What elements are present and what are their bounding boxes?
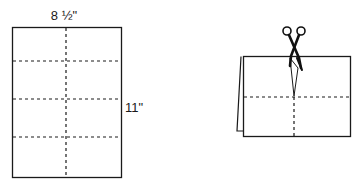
sheet-outline <box>13 28 122 178</box>
flat-sheet: 8 ½" 11" <box>13 8 144 178</box>
paper-folding-diagram: 8 ½" 11" <box>0 0 359 184</box>
card-back-panel <box>237 57 243 132</box>
width-label: 8 ½" <box>51 8 78 23</box>
folded-card <box>237 57 351 137</box>
height-label: 11" <box>125 100 143 115</box>
